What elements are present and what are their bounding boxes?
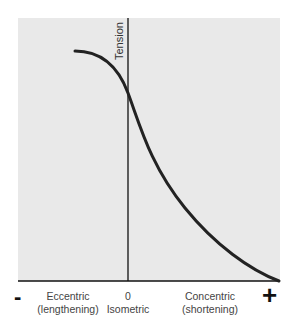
- eccentric-subtitle: (lengthening): [33, 303, 103, 316]
- isometric-text: Isometric: [100, 303, 156, 316]
- concentric-subtitle: (shortening): [178, 303, 242, 316]
- zero-tick: 0: [100, 290, 156, 303]
- chart-lines: [0, 0, 296, 331]
- isometric-label: 0 Isometric: [100, 290, 156, 316]
- concentric-title: Concentric: [178, 290, 242, 303]
- concentric-label: Concentric (shortening): [178, 290, 242, 316]
- eccentric-label: Eccentric (lengthening): [33, 290, 103, 316]
- y-axis-label: Tension: [113, 4, 127, 64]
- force-velocity-curve: [75, 51, 279, 281]
- minus-sign: -: [14, 286, 21, 308]
- eccentric-title: Eccentric: [33, 290, 103, 303]
- tension-label: Tension: [113, 22, 125, 60]
- plus-sign: +: [262, 282, 277, 308]
